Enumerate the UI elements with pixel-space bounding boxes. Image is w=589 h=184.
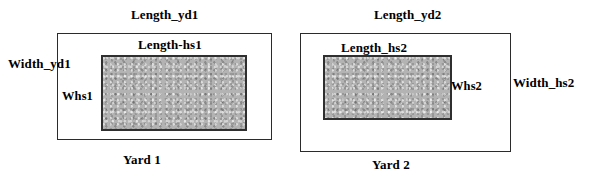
yard-1-outer-width-label: Width_yd1: [8, 57, 71, 71]
yard-2-outer-length-label: Length_yd2: [374, 8, 441, 22]
yard-2-hardstanding-rect: [323, 55, 452, 120]
diagram-canvas: Length_yd1 Width_yd1 Length-hs1 Whs1 Yar…: [0, 0, 589, 184]
yard-2-inner-length-label: Length_hs2: [341, 41, 407, 55]
yard-1-inner-width-label: Whs1: [62, 89, 93, 103]
yard-2-inner-width-label: Whs2: [451, 79, 482, 93]
yard-1-outer-length-label: Length_yd1: [131, 8, 198, 22]
yard-1-hardstanding-rect: [101, 55, 247, 131]
yard-1-caption: Yard 1: [123, 153, 161, 167]
yard-1-inner-length-label: Length-hs1: [138, 38, 202, 52]
yard-2-caption: Yard 2: [372, 158, 410, 172]
clipped-top-text: [150, 0, 300, 1]
yard-2-outer-width-label: Width_hs2: [513, 76, 574, 90]
